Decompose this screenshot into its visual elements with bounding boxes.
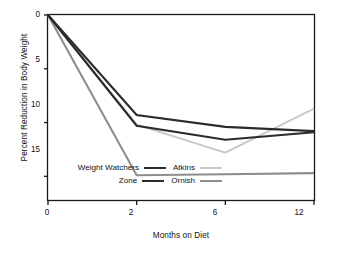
x-tick-label-6: 6 <box>200 208 230 217</box>
legend-swatch-atkins <box>200 167 222 169</box>
y-tick-label-0: 0 <box>18 10 40 19</box>
x-axis-title: Months on Diet <box>47 231 315 240</box>
x-tick-label-0: 0 <box>32 208 62 217</box>
legend-label-ornish: Ornish <box>171 176 200 185</box>
series-line <box>48 15 314 131</box>
legend-label-atkins: Atkins <box>173 163 200 172</box>
legend-swatch-ornish <box>200 180 222 182</box>
y-axis-title: Percent Reduction in Body Weight <box>20 8 29 188</box>
legend-swatch-weight-watchers <box>144 167 166 169</box>
chart-legend: Weight Watchers Atkins Zone Ornish <box>52 161 222 187</box>
legend-row-1: Weight Watchers Atkins <box>52 161 222 174</box>
y-tick-label-10: 10 <box>18 100 40 109</box>
x-tick-label-12: 12 <box>284 208 314 217</box>
y-tick-label-15: 15 <box>18 145 40 154</box>
legend-swatch-zone <box>142 180 164 182</box>
chart-container: Percent Reduction in Body Weight Months … <box>0 0 337 255</box>
legend-label-zone: Zone <box>119 176 142 185</box>
legend-row-2: Zone Ornish <box>52 174 222 187</box>
legend-label-weight-watchers: Weight Watchers <box>78 163 144 172</box>
series-lines <box>48 15 314 175</box>
y-tick-label-5: 5 <box>18 55 40 64</box>
x-tick-label-2: 2 <box>116 208 146 217</box>
series-line <box>48 15 314 175</box>
